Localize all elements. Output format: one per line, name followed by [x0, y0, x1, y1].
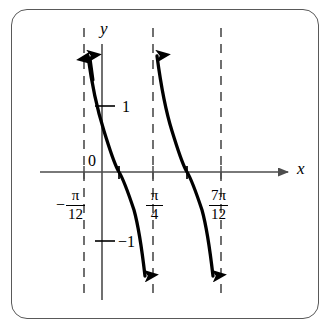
x-tick-label-7pi-over-12: 7π 12 — [208, 188, 228, 223]
x-tick-label-pi-over-4: π 4 — [145, 188, 163, 223]
fraction-numerator: π — [70, 188, 82, 204]
fraction-denominator: 12 — [66, 207, 85, 223]
figure-container: y x 0 1 −1 − π 12 π 4 7π 12 — [0, 0, 332, 330]
fraction: 7π 12 — [209, 188, 228, 223]
fraction: π 4 — [146, 188, 163, 223]
asymptote-lines — [84, 28, 221, 300]
curve-branch-2 — [157, 56, 213, 276]
y-tick-label-1: 1 — [122, 99, 130, 115]
origin-label: 0 — [88, 153, 96, 169]
fraction-denominator: 12 — [209, 207, 228, 223]
y-tick-label-neg-1: −1 — [118, 234, 135, 250]
x-tick-label-neg-pi-over-12: − π 12 — [56, 188, 85, 223]
y-axis-label: y — [100, 20, 108, 37]
x-axis-label: x — [297, 160, 305, 177]
fraction-numerator: π — [149, 188, 161, 204]
fraction-numerator: 7π — [209, 188, 228, 204]
minus-sign: − — [56, 196, 65, 214]
graph-plot — [0, 0, 332, 330]
curve-branch-1 — [88, 56, 145, 276]
y-axis-ticks — [95, 106, 115, 241]
fraction-denominator: 4 — [149, 207, 161, 223]
fraction: π 12 — [66, 188, 85, 223]
